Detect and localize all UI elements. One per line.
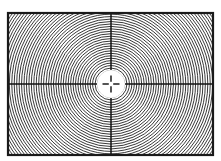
test-pattern-figure — [0, 0, 221, 161]
pattern-canvas — [0, 0, 221, 161]
center-disc — [98, 71, 125, 98]
